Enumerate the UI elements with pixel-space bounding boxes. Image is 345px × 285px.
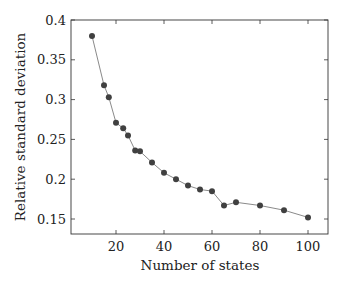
data-series [89, 33, 311, 220]
y-tick-label: 0.35 [37, 52, 66, 67]
data-point [137, 148, 143, 154]
plot-frame [71, 20, 328, 234]
y-tick-label: 0.25 [37, 132, 66, 147]
data-point [125, 132, 131, 138]
data-point [161, 170, 167, 176]
data-point [221, 202, 227, 208]
y-tick-label: 0.15 [37, 212, 66, 227]
y-tick-label: 0.4 [45, 13, 66, 28]
y-axis: 0.150.20.250.30.350.4 [37, 13, 328, 227]
x-axis-label: Number of states [141, 257, 260, 273]
data-point [233, 199, 239, 205]
x-tick-label: 40 [156, 239, 173, 254]
data-point [113, 120, 119, 126]
data-point [149, 159, 155, 165]
plot-area [71, 20, 328, 234]
data-point [185, 183, 191, 189]
x-tick-label: 60 [204, 239, 221, 254]
x-tick-label: 100 [296, 239, 321, 254]
x-tick-label: 80 [252, 239, 269, 254]
y-tick-label: 0.2 [45, 172, 66, 187]
data-point [197, 187, 203, 193]
data-point [305, 214, 311, 220]
y-axis-label: Relative standard deviation [12, 32, 28, 221]
data-point [89, 33, 95, 39]
data-point [281, 207, 287, 213]
data-point [209, 188, 215, 194]
y-tick-label: 0.3 [45, 92, 66, 107]
data-point [173, 176, 179, 182]
data-point [120, 125, 126, 131]
x-axis: 20406080100 [108, 20, 321, 254]
data-point [106, 94, 112, 100]
line-chart: 0.150.20.250.30.350.4 20406080100 Number… [0, 0, 345, 285]
data-point [257, 202, 263, 208]
data-point [101, 82, 107, 88]
x-tick-label: 20 [108, 239, 125, 254]
